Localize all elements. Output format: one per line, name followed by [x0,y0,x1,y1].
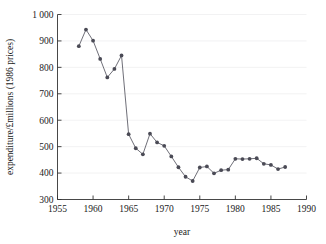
x-axis-ticks [58,196,307,200]
data-point [276,167,280,171]
data-point [177,165,181,169]
y-tick-label: 900 [39,36,54,46]
y-tick-label: 700 [39,89,54,99]
data-line-expenditure [79,30,285,181]
data-point [84,28,88,32]
data-point [127,132,131,136]
y-tick-label: 600 [39,116,54,126]
data-point [120,54,124,58]
y-tick-label: 400 [39,168,54,178]
line-chart: 19551960196519701975198019851990 3004005… [0,0,326,244]
data-points-expenditure [77,28,287,183]
data-point [248,157,252,161]
data-point [198,166,202,170]
data-point [105,76,109,80]
data-point [134,146,138,150]
data-point [212,171,216,175]
data-point [283,165,287,169]
data-point [162,144,166,148]
y-tick-label: 300 [39,195,54,205]
data-point [255,156,259,160]
x-tick-label: 1985 [261,204,280,214]
x-tick-label: 1975 [190,204,209,214]
x-tick-label: 1960 [84,204,103,214]
x-axis-tick-labels: 19551960196519701975198019851990 [48,204,316,214]
data-point [226,168,230,172]
data-point [77,44,81,48]
y-axis-title: expenditure/£millions (1986 prices) [5,39,16,175]
data-point [205,165,209,169]
y-axis-ticks [58,15,62,200]
x-tick-label: 1965 [119,204,138,214]
x-tick-label: 1970 [155,204,174,214]
y-tick-label: 800 [39,63,54,73]
data-point [141,152,145,156]
data-point [113,67,117,71]
data-point [269,163,273,167]
data-point [98,57,102,61]
data-point [219,168,223,172]
x-axis-title: year [174,227,191,237]
data-point [155,141,159,145]
y-axis-tick-labels: 3004005006007008009001 000 [32,10,54,205]
x-tick-label: 1955 [48,204,67,214]
y-tick-label: 500 [39,142,54,152]
data-point [191,179,195,183]
data-point [169,155,173,159]
data-point [184,175,188,179]
data-point [148,132,152,136]
data-point [91,39,95,43]
x-tick-label: 1980 [226,204,245,214]
data-point [262,162,266,166]
x-tick-label: 1990 [297,204,316,214]
chart-container: 19551960196519701975198019851990 3004005… [0,0,326,244]
data-point [241,157,245,161]
data-point [233,157,237,161]
y-tick-label: 1 000 [32,10,54,20]
gridlines [58,15,307,174]
